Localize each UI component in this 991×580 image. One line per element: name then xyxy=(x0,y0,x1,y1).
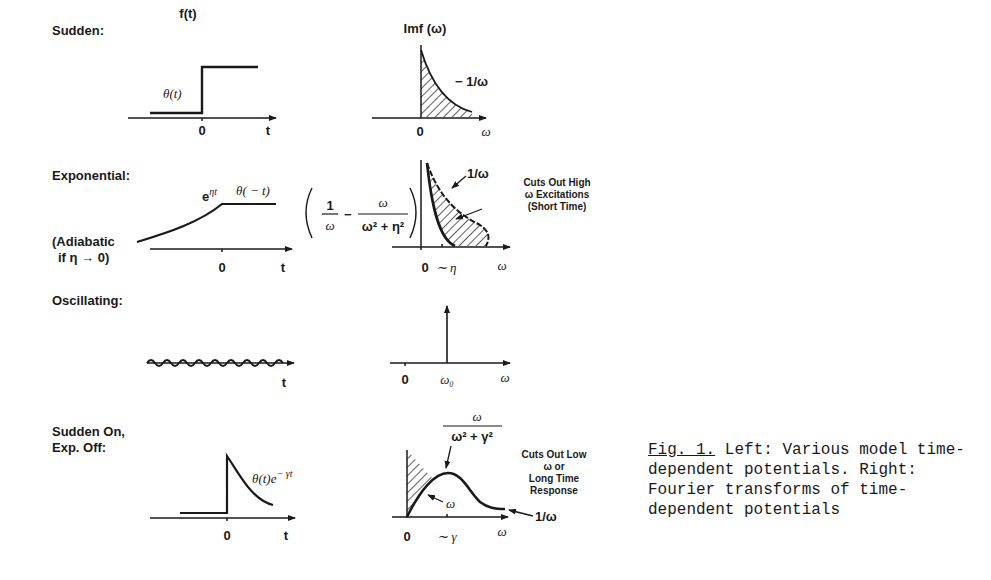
row-label-oscillating: Oscillating: xyxy=(52,293,123,308)
svg-text:ω² + γ²: ω² + γ² xyxy=(451,429,493,444)
annotation-low-freq: Cuts Out Low xyxy=(522,449,587,460)
svg-text:ω² + η²: ω² + η² xyxy=(362,219,405,234)
svg-text:ω: ω xyxy=(500,370,509,385)
svg-text:0: 0 xyxy=(223,528,230,543)
theta-minus-t-label: θ( − t) xyxy=(236,183,270,198)
svg-text:ω: ω xyxy=(472,409,481,424)
row-label-sudden: Sudden: xyxy=(52,23,104,38)
svg-text:ω: ω xyxy=(446,496,455,511)
svg-text:Response: Response xyxy=(530,485,578,496)
svg-text:t: t xyxy=(282,375,287,390)
frequency-domain-header: Imf (ω) xyxy=(404,21,447,36)
row-label-exponential: Exponential: xyxy=(52,168,130,183)
svg-text:eηt: eηt xyxy=(202,186,217,204)
exponential-rise-curve xyxy=(137,204,276,242)
svg-text:ω or: ω or xyxy=(543,461,564,472)
oscillating-freq-plot: 0 ω₀ ω xyxy=(390,306,510,387)
tick-t: t xyxy=(281,260,286,275)
svg-text:t: t xyxy=(284,528,289,543)
tick-omega: ω xyxy=(481,124,490,139)
row-sudden-on-exp-off: Sudden On, Exp. Off: θ(t)e− γt 0 t ω ω² … xyxy=(52,409,587,544)
figure-caption: Fig. 1. Left: Various model time-depende… xyxy=(648,440,978,520)
minus-inverse-omega-label: − 1/ω xyxy=(455,74,488,89)
svg-text:ω: ω xyxy=(325,218,334,233)
tail-inverse-omega-label: 1/ω xyxy=(535,509,557,524)
tick-zero: 0 xyxy=(416,124,423,139)
row-oscillating: Oscillating: t 0 ω₀ ω xyxy=(52,293,510,390)
annotation-high-freq: Cuts Out High xyxy=(523,177,590,188)
svg-text:∼ γ: ∼ γ xyxy=(437,529,457,544)
adiabatic-label: (Adiabatic xyxy=(52,234,115,249)
time-domain-header: f(t) xyxy=(179,6,196,21)
exponential-time-plot: eηt θ( − t) 0 t xyxy=(137,183,292,275)
svg-text:ω₀: ω₀ xyxy=(440,372,454,387)
svg-text:1: 1 xyxy=(326,198,333,213)
lorentzian-freq-plot: ω ω² + γ² ω 1/ω 0 ∼ γ ω Cuts Out Low ω o… xyxy=(392,409,587,544)
row-label-exp-off: Exp. Off: xyxy=(52,440,106,455)
decay-time-plot: θ(t)e− γt 0 t xyxy=(150,456,295,543)
svg-text:−: − xyxy=(344,207,352,222)
tick-t: t xyxy=(266,123,271,138)
svg-text:(Short Time): (Short Time) xyxy=(528,201,587,212)
sudden-time-plot: θ(t) 0 t xyxy=(128,67,276,138)
theta-label: θ(t) xyxy=(163,86,182,101)
svg-text:Long Time: Long Time xyxy=(529,473,580,484)
exponential-freq-plot: 1/ω 0 ∼ η ω Cuts Out High ω Excitations … xyxy=(392,160,591,275)
oscillating-time-plot: t xyxy=(147,360,294,390)
row-exponential: Exponential: (Adiabatic if η → 0) eηt θ(… xyxy=(52,160,591,275)
svg-text:0: 0 xyxy=(401,372,408,387)
svg-text:ω: ω xyxy=(378,195,387,210)
svg-text:ω: ω xyxy=(497,258,506,273)
svg-text:ω: ω xyxy=(497,524,506,539)
exponential-formula: 1 ω − ω ω² + η² xyxy=(306,188,416,238)
svg-text:0: 0 xyxy=(421,260,428,275)
svg-text:ω Excitations: ω Excitations xyxy=(525,189,590,200)
row-sudden: Sudden: θ(t) 0 t − 1/ω 0 ω xyxy=(52,23,491,139)
tick-zero: 0 xyxy=(218,260,225,275)
row-label-sudden-on: Sudden On, xyxy=(52,424,125,439)
inverse-omega-label: 1/ω xyxy=(467,166,489,181)
svg-text:0: 0 xyxy=(403,529,410,544)
svg-text:∼ η: ∼ η xyxy=(436,260,457,275)
figure-reference: Fig. 1. xyxy=(648,441,715,459)
adiabatic-condition: if η → 0) xyxy=(58,250,109,265)
tick-zero: 0 xyxy=(198,123,205,138)
sudden-freq-plot: − 1/ω 0 ω xyxy=(372,45,491,139)
svg-text:θ(t)e− γt: θ(t)e− γt xyxy=(252,468,293,486)
